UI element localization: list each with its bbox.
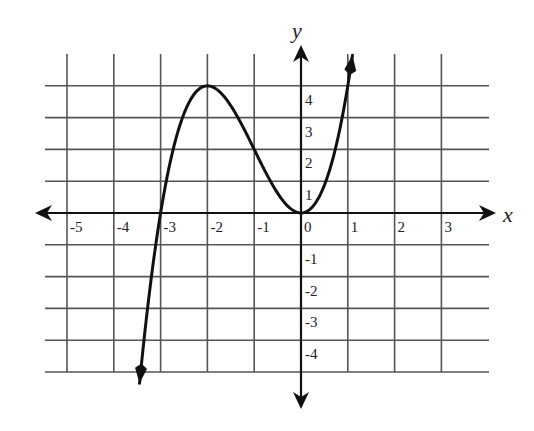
x-tick-label: -2 [210, 219, 223, 235]
x-axis-label: x [502, 202, 513, 227]
x-tick-label: 2 [398, 219, 406, 235]
y-tick-label: -1 [305, 251, 318, 267]
x-tick-label: -4 [117, 219, 130, 235]
y-tick-label: 3 [305, 124, 313, 140]
x-tick-label: 1 [351, 219, 359, 235]
curve-start-arrow-icon [135, 363, 147, 383]
x-tick-label: 0 [304, 219, 312, 235]
x-tick-label: -5 [70, 219, 83, 235]
graph-figure: -5-4-3-2-101234321-1-2-3-4 x y [0, 0, 534, 431]
x-tick-label: -3 [164, 219, 177, 235]
y-tick-label: 1 [305, 187, 313, 203]
y-tick-label: 2 [305, 155, 313, 171]
y-tick-label: -3 [305, 314, 318, 330]
cubic-function-plot: -5-4-3-2-101234321-1-2-3-4 x y [0, 0, 534, 431]
x-tick-label: 3 [444, 219, 452, 235]
y-axis-label: y [290, 18, 302, 43]
y-tick-label: -2 [305, 283, 318, 299]
y-tick-label: -4 [305, 346, 318, 362]
x-tick-label: -1 [257, 219, 270, 235]
y-tick-label: 4 [305, 92, 313, 108]
curve-end-arrow-icon [344, 55, 356, 75]
